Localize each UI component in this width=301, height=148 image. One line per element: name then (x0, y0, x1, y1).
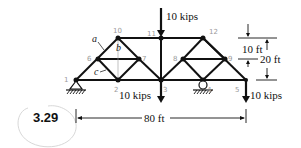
leader-a (98, 42, 104, 50)
leader-c (100, 70, 106, 72)
node-label-1: 1 (64, 76, 68, 84)
node-label-7: 7 (142, 55, 146, 63)
span-label: 80 ft (144, 112, 164, 124)
figure-number: 3.29 (33, 110, 58, 125)
load-label-3: 10 kips (119, 89, 151, 101)
member-label-c: c (94, 66, 99, 77)
node-label-9: 9 (228, 55, 232, 63)
node-label-11: 11 (147, 30, 156, 38)
load-label-5: 10 kips (250, 89, 282, 101)
node-label-10: 10 (113, 27, 122, 35)
node-label-12: 12 (209, 28, 218, 36)
node-label-5: 5 (235, 86, 239, 94)
truss-members (76, 38, 246, 80)
node-label-3: 3 (163, 86, 167, 94)
node-label-2: 2 (114, 86, 118, 94)
node-label-6: 6 (87, 55, 92, 63)
node-label-8: 8 (173, 55, 177, 63)
member-label-a: a (92, 33, 97, 44)
node-label-4: 4 (207, 86, 212, 94)
member-label-b: b (116, 42, 121, 53)
load-arrow-node-5 (242, 80, 250, 103)
load-label-11: 10 kips (166, 10, 198, 22)
truss-diagram: 10 kips 10 kips 10 kips 10 ft 20 ft 80 (0, 0, 301, 148)
height-20ft-label: 20 ft (260, 53, 280, 65)
pin-support (66, 81, 86, 94)
load-arrow-node-11 (157, 8, 165, 37)
